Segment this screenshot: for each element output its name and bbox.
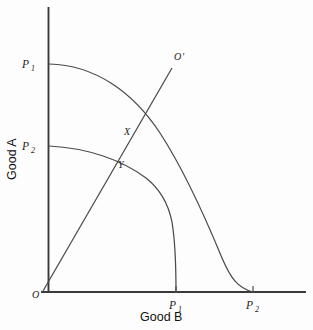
- ray-o-to-o-prime: [43, 68, 172, 291]
- y-axis-label-p2: P: [21, 140, 29, 152]
- y-axis-label-p1-subscript: 1: [31, 64, 35, 73]
- ppf-curve-inner: [49, 146, 176, 292]
- point-label-x: X: [123, 126, 131, 137]
- x-axis-label-p2-subscript: 2: [255, 305, 259, 314]
- x-axis-title: Good B: [140, 310, 182, 324]
- origin-label: O: [32, 289, 39, 300]
- x-axis-label-p2: P: [245, 299, 253, 311]
- y-axis-label-p2-subscript: 2: [31, 146, 35, 155]
- ppf-diagram-svg: P 1 P 2 P 1 P 2 O O ′ X Y Good A Good B: [0, 0, 313, 330]
- figure-container: P 1 P 2 P 1 P 2 O O ′ X Y Good A Good B: [0, 0, 313, 330]
- y-axis-label-p1: P: [21, 58, 29, 70]
- y-axis-title: Good A: [5, 138, 19, 180]
- ray-terminus-prime-mark: ′: [182, 51, 185, 62]
- ppf-curve-outer: [49, 64, 253, 292]
- ray-terminus-label: O: [174, 51, 181, 62]
